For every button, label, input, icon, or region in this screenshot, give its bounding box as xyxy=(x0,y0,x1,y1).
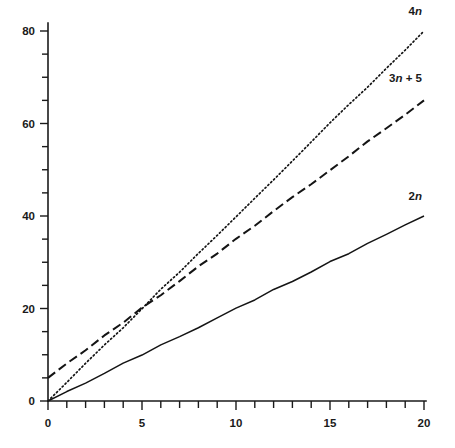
series-label-3n-5: 3n + 5 xyxy=(389,72,423,84)
line-chart-plot: 020406080 05101520 4n3n + 52n xyxy=(0,0,455,448)
x-tick-label-0: 0 xyxy=(45,417,51,429)
series-label-variable: n xyxy=(415,5,422,17)
series-label-2n: 2n xyxy=(409,190,422,202)
series-label-4n: 4n xyxy=(409,5,422,17)
y-tick-label-20: 20 xyxy=(22,303,35,315)
series-label-constant: + 5 xyxy=(402,72,422,84)
y-tick-label-40: 40 xyxy=(22,210,35,222)
x-tick-label-15: 15 xyxy=(324,417,337,429)
series-label-variable: n xyxy=(395,72,402,84)
x-tick-label-5: 5 xyxy=(139,417,146,429)
x-tick-label-20: 20 xyxy=(418,417,431,429)
y-tick-label-60: 60 xyxy=(22,118,35,130)
x-tick-label-10: 10 xyxy=(230,417,243,429)
series-label-variable: n xyxy=(415,190,422,202)
chart-container: 020406080 05101520 4n3n + 52n xyxy=(0,0,455,448)
y-tick-label-80: 80 xyxy=(22,25,35,37)
y-tick-label-0: 0 xyxy=(29,395,35,407)
